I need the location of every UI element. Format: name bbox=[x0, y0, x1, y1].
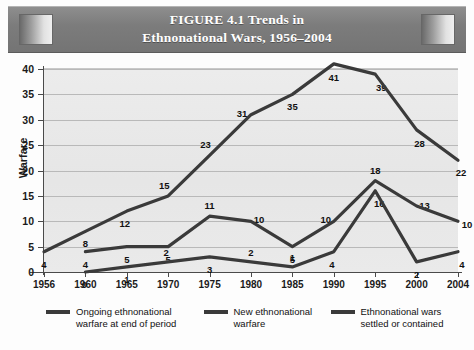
y-axis-tick-label: 30 bbox=[8, 114, 34, 126]
data-point-label: 3 bbox=[207, 263, 212, 274]
data-point-label: 28 bbox=[414, 137, 425, 148]
legend-label-new-line-2: warfare bbox=[234, 318, 266, 329]
data-point-label: 16 bbox=[374, 197, 385, 208]
legend-label-new-line-1: New ethnonational bbox=[234, 306, 313, 317]
y-axis-tick-label: 20 bbox=[8, 165, 34, 177]
data-point-label: 39 bbox=[376, 82, 387, 93]
x-axis-tick bbox=[292, 272, 293, 277]
data-point-label: 2 bbox=[414, 268, 419, 279]
x-axis-tick-label: 1970 bbox=[148, 279, 188, 290]
y-axis-tick bbox=[38, 221, 44, 222]
y-axis-tick-label: 15 bbox=[8, 190, 34, 202]
data-point-label: 22 bbox=[456, 167, 467, 178]
figure-title-line-2: Ethnonational Wars, 1956–2004 bbox=[8, 29, 466, 47]
gridline bbox=[44, 221, 458, 222]
data-point-label: 1 bbox=[124, 273, 129, 284]
chart-legend: Ongoing ethnonational warfare at end of … bbox=[8, 306, 466, 342]
figure-title: FIGURE 4.1 Trends in Ethnonational Wars,… bbox=[8, 11, 466, 47]
legend-label-ongoing-line-1: Ongoing ethnonational bbox=[76, 306, 172, 317]
figure-container: FIGURE 4.1 Trends in Ethnonational Wars,… bbox=[0, 0, 474, 350]
y-axis-tick-label: 5 bbox=[8, 241, 34, 253]
plot-area bbox=[44, 69, 458, 272]
y-axis-tick-label: 10 bbox=[8, 215, 34, 227]
data-point-label: 31 bbox=[237, 107, 248, 118]
data-point-label: 4 bbox=[41, 258, 46, 269]
figure-title-banner: FIGURE 4.1 Trends in Ethnonational Wars,… bbox=[8, 6, 466, 53]
y-axis-title: Warfare bbox=[17, 123, 29, 193]
x-axis-tick bbox=[334, 272, 335, 277]
gridline bbox=[44, 171, 458, 172]
gridline bbox=[44, 120, 458, 121]
y-axis-tick bbox=[38, 196, 44, 197]
x-axis-tick bbox=[251, 272, 252, 277]
y-axis-tick-label: 0 bbox=[8, 266, 34, 278]
data-point-label: 10 bbox=[254, 214, 265, 225]
data-point-label: 0 bbox=[82, 279, 87, 290]
x-axis-tick bbox=[85, 272, 86, 277]
y-axis-tick bbox=[38, 247, 44, 248]
data-point-label: 18 bbox=[370, 164, 381, 175]
legend-label-settled-line-1: Ethnonational wars bbox=[361, 306, 442, 317]
legend-item-ongoing[interactable]: Ongoing ethnonational warfare at end of … bbox=[46, 306, 204, 342]
x-axis-tick bbox=[44, 272, 45, 277]
y-axis-tick-label: 25 bbox=[8, 139, 34, 151]
x-axis-tick-label: 1980 bbox=[231, 279, 271, 290]
data-point-label: 11 bbox=[205, 200, 215, 211]
y-axis-tick bbox=[38, 69, 44, 70]
x-axis-line bbox=[30, 272, 462, 273]
legend-item-new[interactable]: New ethnonational warfare bbox=[204, 306, 331, 342]
legend-label-new: New ethnonational warfare bbox=[234, 306, 313, 330]
x-axis-tick-label: 1995 bbox=[355, 279, 395, 290]
x-axis-tick-label: 1985 bbox=[272, 279, 312, 290]
y-axis-tick bbox=[38, 145, 44, 146]
data-point-label: 2 bbox=[164, 246, 169, 257]
data-point-label: 4 bbox=[83, 258, 88, 269]
data-point-label: 10 bbox=[462, 219, 473, 230]
data-point-label: 2 bbox=[248, 246, 253, 257]
x-axis-tick bbox=[168, 272, 169, 277]
y-axis-tick bbox=[38, 171, 44, 172]
data-point-label: 12 bbox=[120, 218, 131, 229]
legend-label-settled-line-2: settled or contained bbox=[361, 318, 444, 329]
data-point-label: 1 bbox=[290, 251, 295, 262]
legend-label-ongoing: Ongoing ethnonational warfare at end of … bbox=[76, 306, 176, 330]
x-axis-tick bbox=[375, 272, 376, 277]
legend-item-settled[interactable]: Ethnonational wars settled or contained bbox=[331, 306, 466, 342]
legend-swatch-icon bbox=[331, 310, 355, 314]
x-axis-tick-label: 1956 bbox=[24, 279, 64, 290]
legend-label-settled: Ethnonational wars settled or contained bbox=[361, 306, 444, 330]
data-point-label: 15 bbox=[159, 179, 170, 190]
data-point-label: 8 bbox=[83, 238, 88, 249]
gridline bbox=[44, 94, 458, 95]
y-axis-tick bbox=[38, 94, 44, 95]
x-axis-tick bbox=[458, 272, 459, 277]
gridline bbox=[44, 196, 458, 197]
data-point-label: 23 bbox=[200, 139, 211, 150]
y-axis-tick-label: 40 bbox=[8, 63, 34, 75]
x-axis-tick-label: 2000 bbox=[397, 279, 437, 290]
gridline bbox=[44, 69, 458, 70]
x-axis-tick-label: 2004 bbox=[438, 279, 474, 290]
data-point-label: 35 bbox=[287, 101, 298, 112]
legend-swatch-icon bbox=[204, 310, 228, 314]
data-point-label: 5 bbox=[124, 253, 129, 264]
data-point-label: 4 bbox=[329, 258, 334, 269]
legend-label-ongoing-line-2: warfare at end of period bbox=[76, 318, 176, 329]
y-axis-tick-label: 35 bbox=[8, 88, 34, 100]
data-point-label: 41 bbox=[329, 71, 340, 82]
data-point-label: 10 bbox=[321, 214, 332, 225]
x-axis-tick-label: 1990 bbox=[314, 279, 354, 290]
gridline bbox=[44, 145, 458, 146]
plot-top-border bbox=[44, 68, 458, 69]
y-axis-tick bbox=[38, 120, 44, 121]
data-point-label: 13 bbox=[419, 200, 430, 211]
data-point-label: 4 bbox=[459, 258, 464, 269]
legend-swatch-icon bbox=[46, 310, 70, 314]
x-axis-tick-label: 1975 bbox=[190, 279, 230, 290]
figure-title-line-1: FIGURE 4.1 Trends in bbox=[8, 11, 466, 29]
